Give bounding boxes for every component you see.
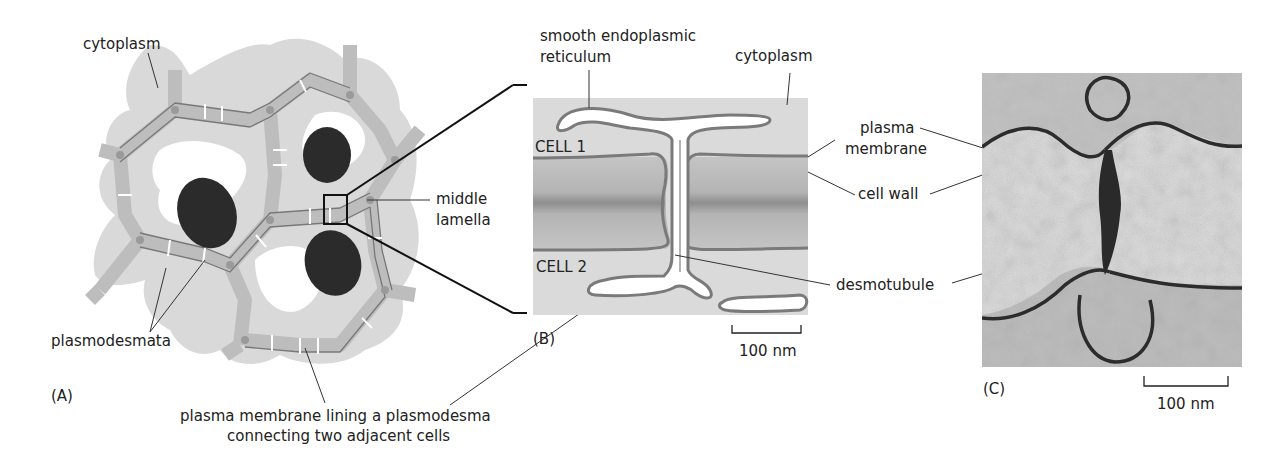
label-membrane: membrane (845, 140, 927, 158)
scale-label-c: 100 nm (1157, 395, 1215, 413)
label-cytoplasm-a: cytoplasm (83, 35, 161, 53)
figure-canvas: cytoplasm plasmodesmata (A) plasma membr… (0, 0, 1283, 456)
panel-c-micrograph (982, 73, 1242, 386)
label-plasmodesmata: plasmodesmata (51, 332, 171, 350)
panel-b-tag: (B) (533, 330, 555, 348)
panel-c-tag: (C) (983, 380, 1005, 398)
label-plasma: plasma (860, 119, 915, 137)
label-plasma-membrane-lining-1: plasma membrane lining a plasmodesma (180, 407, 491, 425)
label-lamella: lamella (436, 211, 491, 229)
label-cell-1: CELL 1 (535, 138, 586, 156)
scale-label-b: 100 nm (739, 342, 797, 360)
nucleus (303, 127, 351, 183)
panel-a-tag: (A) (51, 387, 73, 405)
label-cytoplasm-b: cytoplasm (735, 47, 813, 65)
label-plasma-membrane-lining-2: connecting two adjacent cells (227, 427, 450, 445)
label-ser-1: smooth endoplasmic (540, 27, 696, 45)
label-middle: middle (436, 190, 487, 208)
label-ser-2: reticulum (540, 48, 611, 66)
label-cell-wall: cell wall (858, 185, 918, 203)
label-cell-2: CELL 2 (536, 258, 587, 276)
label-desmotubule: desmotubule (836, 276, 934, 294)
scale-bar-c (1144, 376, 1228, 386)
scale-bar-b (732, 325, 801, 333)
panel-b-plasmodesma-schematic (533, 70, 855, 333)
er-vesicle (719, 295, 806, 312)
